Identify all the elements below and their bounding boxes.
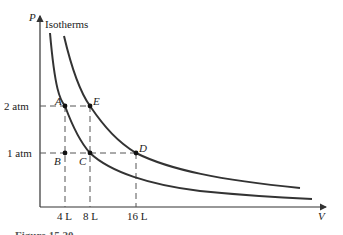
- v-axis-label: V: [318, 211, 325, 222]
- figure-caption: Figure 15.20: [15, 230, 73, 235]
- isotherm-upper: [64, 36, 300, 188]
- tick-16L: 16 L: [127, 211, 147, 222]
- point-label-a: A: [55, 96, 62, 107]
- point-label-e: E: [93, 96, 100, 107]
- tick-1atm: 1 atm: [7, 148, 32, 159]
- isotherm-lower: [50, 33, 312, 199]
- tick-2atm: 2 atm: [4, 101, 29, 112]
- point-label-c: C: [79, 156, 86, 167]
- point-label-b: B: [54, 156, 61, 167]
- tick-8L: 8 L: [83, 211, 98, 222]
- pv-diagram: [0, 0, 343, 235]
- p-axis-label: P: [29, 12, 36, 23]
- point-label-d: D: [139, 143, 147, 154]
- chart-title: Isotherms: [45, 19, 88, 30]
- tick-4L: 4 L: [57, 211, 72, 222]
